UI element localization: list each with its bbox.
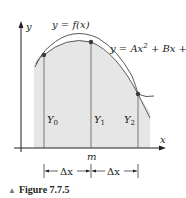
- simpsons-rule-figure: y x y = f(x) y = Ax2 + Bx + C Y0 Y1 Y2 m…: [0, 0, 186, 198]
- arrow-left-icon: [92, 170, 96, 173]
- caption-triangle-icon: ▲: [8, 186, 16, 195]
- curve-f-label: y = f(x): [51, 19, 90, 30]
- shaded-area: [34, 40, 150, 148]
- arrow-right-icon: [86, 170, 90, 173]
- caption-text: Figure 7.7.5: [19, 184, 70, 195]
- y-axis-arrow-icon: [19, 21, 24, 28]
- delta-right-label: Δx: [107, 166, 120, 177]
- x-axis-label: x: [160, 134, 166, 145]
- x-axis-arrow-icon: [159, 146, 166, 151]
- arrow-left-icon: [45, 170, 49, 173]
- figure-caption: ▲Figure 7.7.5: [8, 184, 70, 195]
- parabola-label: y = Ax2 + Bx + C: [109, 42, 186, 54]
- midpoint-label: m: [87, 151, 96, 162]
- y-axis-label: y: [25, 21, 32, 32]
- point-y1: [89, 40, 93, 44]
- arrow-right-icon: [133, 170, 137, 173]
- point-y2: [136, 92, 140, 96]
- point-y0: [42, 53, 46, 57]
- delta-left-label: Δx: [60, 166, 73, 177]
